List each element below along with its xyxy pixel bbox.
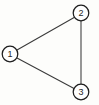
graph-node-1[interactable]: 1 — [2, 46, 18, 62]
graph-node-3[interactable]: 3 — [73, 84, 89, 100]
node-label-2: 2 — [78, 8, 83, 18]
graph-canvas: 1 2 3 — [0, 0, 99, 105]
node-label-1: 1 — [7, 49, 12, 59]
graph-node-2[interactable]: 2 — [73, 5, 89, 21]
graph-edge-1-3 — [17, 58, 75, 89]
node-label-3: 3 — [78, 87, 83, 97]
graph-diagram: 1 2 3 — [0, 0, 99, 105]
graph-edge-1-2 — [17, 17, 75, 50]
